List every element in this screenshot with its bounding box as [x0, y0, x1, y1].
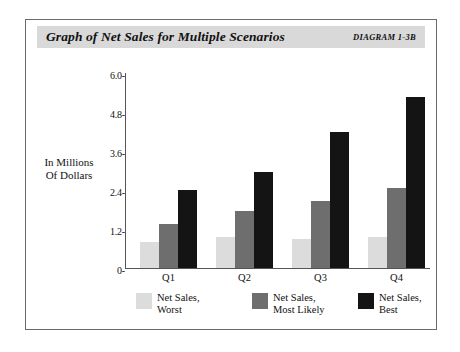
chart-legend: Net Sales,WorstNet Sales,Most LikelyNet …: [106, 292, 426, 322]
legend-label-worst: Net Sales,Worst: [157, 292, 200, 316]
bar-q1-worst[interactable]: [140, 242, 159, 268]
bar-q4-mostlikely[interactable]: [387, 188, 406, 268]
legend-label-line-2: Most Likely: [273, 304, 325, 316]
y-tick-label-5: 6.0-: [110, 70, 125, 81]
y-tick-label-1: 1.2-: [110, 226, 125, 237]
legend-label-line-1: Net Sales,: [379, 292, 422, 304]
bar-q2-worst[interactable]: [216, 237, 235, 268]
y-tick-label-2: 2.4-: [110, 187, 125, 198]
bar-q3-best[interactable]: [330, 132, 349, 269]
x-axis-label-q1: Q1: [162, 272, 175, 283]
legend-label-line-1: Net Sales,: [273, 292, 325, 304]
bar-q3-worst[interactable]: [292, 239, 311, 268]
bar-q2-mostlikely[interactable]: [235, 211, 254, 268]
legend-label-mostlikely: Net Sales,Most Likely: [273, 292, 325, 316]
bar-q2-best[interactable]: [254, 172, 273, 268]
bar-group-q1: [126, 73, 202, 268]
bar-group-q4: [354, 73, 430, 268]
y-tick-label-0: 0-: [117, 265, 125, 276]
legend-swatch-best: [358, 293, 374, 309]
bar-q3-mostlikely[interactable]: [311, 201, 330, 268]
legend-label-line-2: Best: [379, 304, 422, 316]
x-axis-label-q4: Q4: [390, 272, 403, 283]
legend-item-mostlikely[interactable]: Net Sales,Most Likely: [252, 292, 325, 316]
x-axis-label-q2: Q2: [238, 272, 251, 283]
chart-plot-area: In Millions Of Dollars 0-1.2-2.4-3.6-4.8…: [26, 20, 436, 329]
legend-item-worst[interactable]: Net Sales,Worst: [136, 292, 200, 316]
figure-frame: Graph of Net Sales for Multiple Scenario…: [25, 19, 437, 330]
x-axis-line: [125, 268, 430, 269]
bar-q4-worst[interactable]: [368, 237, 387, 268]
bar-q1-mostlikely[interactable]: [159, 224, 178, 268]
legend-label-best: Net Sales,Best: [379, 292, 422, 316]
y-axis-ticks: 0-1.2-2.4-3.6-4.8-6.0-: [87, 75, 125, 267]
x-axis-label-q3: Q3: [314, 272, 327, 283]
legend-swatch-worst: [136, 293, 152, 309]
y-tick-label-4: 4.8-: [110, 109, 125, 120]
bar-group-q3: [278, 73, 354, 268]
x-axis-labels: Q1Q2Q3Q4: [126, 272, 430, 288]
bar-q1-best[interactable]: [178, 190, 197, 268]
legend-item-best[interactable]: Net Sales,Best: [358, 292, 422, 316]
legend-swatch-mostlikely: [252, 293, 268, 309]
y-tick-label-3: 3.6-: [110, 148, 125, 159]
bar-group-q2: [202, 73, 278, 268]
bar-q4-best[interactable]: [406, 97, 425, 268]
bars-container: [126, 73, 430, 268]
legend-label-line-1: Net Sales,: [157, 292, 200, 304]
legend-label-line-2: Worst: [157, 304, 200, 316]
